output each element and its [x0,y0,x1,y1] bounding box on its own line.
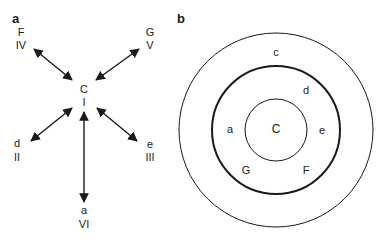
ring-label-g: G [242,165,251,176]
arrow-c-f [34,49,72,80]
node-e-numeral: III [145,152,154,163]
outer-ring-label-c: c [273,47,279,58]
panel-b-label: b [177,12,185,25]
node-e-letter: e [147,139,153,150]
ring-label-a: a [227,124,233,135]
node-g-letter: G [146,27,155,38]
node-d-letter: d [14,138,20,149]
ring-label-f: F [303,165,310,176]
arrow-c-e [97,108,137,141]
node-a-letter: a [81,205,87,216]
ring-label-d: d [303,85,309,96]
center-letter: C [80,84,88,95]
center-label-c: C [272,124,281,135]
node-f-numeral: IV [16,40,26,51]
center-numeral: I [82,97,85,108]
panel-a-label: a [12,12,19,25]
panel-a-arrows [31,49,139,202]
ring-label-e: e [319,125,325,136]
node-a-numeral: VI [79,219,89,230]
node-g-numeral: V [146,40,153,51]
diagram-canvas [0,0,383,240]
node-f-letter: F [18,27,25,38]
node-d-numeral: II [14,152,20,163]
arrow-c-d [31,108,72,141]
arrow-c-g [96,49,139,80]
